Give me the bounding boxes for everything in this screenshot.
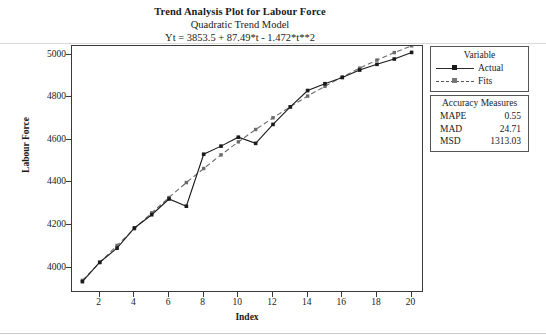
data-point-actual <box>289 105 293 109</box>
accuracy-value-msd: 1313.03 <box>490 135 521 148</box>
y-tick-mark <box>66 96 71 97</box>
data-point-fits <box>219 153 222 156</box>
data-point-fits <box>271 116 274 119</box>
x-tick-label: 2 <box>84 297 114 307</box>
x-tick-mark <box>341 292 342 297</box>
x-tick-mark <box>272 292 273 297</box>
x-tick-label: 12 <box>257 297 287 307</box>
x-tick-mark <box>99 292 100 297</box>
data-point-actual <box>115 246 119 250</box>
y-tick-mark <box>66 139 71 140</box>
y-axis-tick-labels: 400042004400460048005000 <box>28 0 66 336</box>
x-tick-label: 6 <box>153 297 183 307</box>
data-point-actual <box>254 142 258 146</box>
footer-divider <box>0 333 546 334</box>
y-tick-label: 4800 <box>32 91 66 101</box>
x-tick-label: 10 <box>222 297 252 307</box>
y-tick-label: 4200 <box>32 219 66 229</box>
y-tick-mark <box>66 181 71 182</box>
data-point-actual <box>271 123 275 127</box>
data-point-actual <box>150 213 154 217</box>
x-tick-mark <box>168 292 169 297</box>
accuracy-row-mad: MAD 24.71 <box>436 123 523 136</box>
x-tick-label: 8 <box>188 297 218 307</box>
chart-equation: Yt = 3853.5 + 87.49*t - 1.472*t**2 <box>0 31 480 44</box>
data-point-fits <box>254 128 257 131</box>
data-point-fits <box>306 94 309 97</box>
data-point-actual <box>358 68 362 72</box>
x-tick-mark <box>411 292 412 297</box>
series-canvas <box>72 46 422 291</box>
data-point-fits <box>393 51 396 54</box>
accuracy-label-mad: MAD <box>440 123 462 136</box>
data-point-fits <box>237 140 240 143</box>
legend-label-actual: Actual <box>475 62 503 74</box>
chart-app: Trend Analysis Plot for Labour Force Qua… <box>0 0 546 336</box>
data-point-actual <box>410 51 414 55</box>
data-point-fits <box>375 58 378 61</box>
data-point-fits <box>410 46 413 47</box>
x-tick-label: 4 <box>118 297 148 307</box>
accuracy-value-mad: 24.71 <box>500 123 521 136</box>
accuracy-row-mape: MAPE 0.55 <box>436 110 523 123</box>
data-point-actual <box>202 152 206 156</box>
y-tick-mark <box>66 54 71 55</box>
x-axis-title: Index <box>71 312 423 322</box>
x-tick-mark <box>376 292 377 297</box>
y-tick-mark <box>66 224 71 225</box>
data-point-fits <box>185 181 188 184</box>
y-tick-label: 5000 <box>32 49 66 59</box>
data-point-actual <box>392 57 396 61</box>
accuracy-label-msd: MSD <box>440 135 461 148</box>
x-tick-mark <box>203 292 204 297</box>
data-point-actual <box>133 226 137 230</box>
data-point-fits <box>202 167 205 170</box>
accuracy-label-mape: MAPE <box>440 110 466 123</box>
x-tick-label: 14 <box>292 297 322 307</box>
series-line-fits <box>82 46 411 280</box>
data-point-actual <box>237 135 241 139</box>
legend-key-fits-icon <box>435 75 475 87</box>
data-point-actual <box>185 204 189 208</box>
chart-subtitle: Quadratic Trend Model <box>0 18 480 31</box>
legend: Variable Actual Fits <box>430 46 529 92</box>
data-point-actual <box>81 280 85 284</box>
y-tick-label: 4400 <box>32 176 66 186</box>
data-point-actual <box>341 76 345 80</box>
legend-item-fits[interactable]: Fits <box>435 74 524 87</box>
legend-title: Variable <box>435 49 524 61</box>
data-point-actual <box>375 63 379 67</box>
data-point-actual <box>306 89 310 93</box>
x-tick-label: 16 <box>326 297 356 307</box>
chart-title: Trend Analysis Plot for Labour Force <box>0 5 480 18</box>
accuracy-measures-box: Accuracy Measures MAPE 0.55 MAD 24.71 MS… <box>430 95 529 152</box>
plot-area <box>71 45 423 292</box>
series-line-actual <box>82 52 411 281</box>
legend-key-actual-icon <box>435 62 475 74</box>
accuracy-title: Accuracy Measures <box>436 97 523 110</box>
x-tick-mark <box>133 292 134 297</box>
legend-item-actual[interactable]: Actual <box>435 61 524 74</box>
accuracy-value-mape: 0.55 <box>504 110 521 123</box>
data-point-actual <box>98 260 102 264</box>
chart-title-block: Trend Analysis Plot for Labour Force Qua… <box>0 5 480 44</box>
y-tick-mark <box>66 267 71 268</box>
x-tick-label: 18 <box>361 297 391 307</box>
data-point-actual <box>323 82 327 86</box>
accuracy-row-msd: MSD 1313.03 <box>436 135 523 148</box>
x-tick-mark <box>307 292 308 297</box>
y-tick-label: 4600 <box>32 134 66 144</box>
y-tick-label: 4000 <box>32 262 66 272</box>
x-tick-mark <box>237 292 238 297</box>
data-point-actual <box>167 197 171 201</box>
data-point-actual <box>219 144 223 148</box>
x-tick-label: 20 <box>396 297 426 307</box>
legend-label-fits: Fits <box>475 75 492 87</box>
